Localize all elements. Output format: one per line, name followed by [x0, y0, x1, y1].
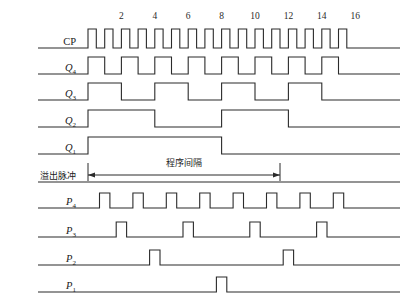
waveform-p1: [38, 277, 400, 292]
timing-diagram-canvas: 246810121416 CPQ4Q3Q2Q1溢出脉冲P4P3P2P1 程序间隔: [0, 0, 410, 298]
timing-diagram: 246810121416 CPQ4Q3Q2Q1溢出脉冲P4P3P2P1 程序间隔: [0, 0, 410, 298]
axis-tick-label: 2: [119, 11, 124, 21]
waveform-q1: [38, 137, 400, 154]
signal-label-ovf: 溢出脉冲: [40, 170, 76, 181]
interval-arrowhead-right: [273, 172, 280, 177]
waveform-q2: [38, 110, 400, 127]
axis-tick-labels: 246810121416: [119, 11, 360, 21]
signal-label-cp: CP: [63, 36, 76, 47]
waveform-q3: [38, 83, 400, 100]
signal-label-group: CPQ4Q3Q2Q1溢出脉冲P4P3P2P1: [40, 36, 77, 294]
waveform-q4: [38, 57, 400, 74]
waveform-p2: [38, 250, 400, 265]
axis-tick-label: 16: [350, 11, 360, 21]
waveform-p3: [38, 222, 400, 237]
program-interval-annotation: 程序间隔: [88, 157, 280, 181]
axis-tick-label: 4: [152, 11, 157, 21]
axis-tick-label: 12: [284, 11, 294, 21]
waveform-group: [38, 29, 400, 292]
axis-tick-label: 10: [250, 11, 260, 21]
program-interval-label: 程序间隔: [166, 157, 202, 168]
axis-tick-label: 14: [317, 11, 327, 21]
interval-arrowhead-left: [88, 172, 95, 177]
axis-tick-label: 6: [186, 11, 191, 21]
waveform-cp: [38, 29, 400, 48]
axis-tick-label: 8: [219, 11, 224, 21]
waveform-p4: [38, 193, 400, 208]
